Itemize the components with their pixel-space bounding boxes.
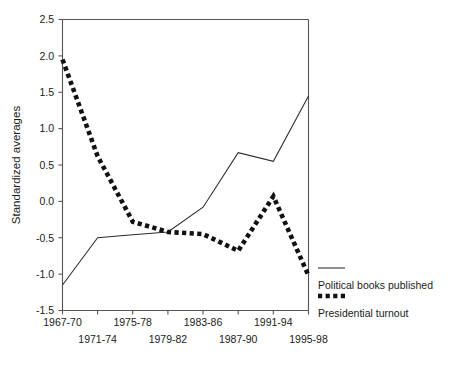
x-tickmarks <box>63 311 309 315</box>
x-tick-label-1971-74: 1971-74 <box>78 333 117 345</box>
y-axis-title: Standardized averages <box>10 106 22 225</box>
chart-figure: 2.5 2.0 1.5 1.0 0.5 0.0 -0.5 -1.0 -1.5 1… <box>0 0 462 368</box>
y-tick-label: -0.5 <box>36 232 54 244</box>
y-tick-label: 1.0 <box>39 122 54 134</box>
y-tick-label: 2.5 <box>39 13 54 25</box>
y-tick-label: -1.5 <box>36 304 54 316</box>
legend-label-political-books-published: Political books published <box>318 279 433 291</box>
x-tick-label-1995-98: 1995-98 <box>289 333 328 345</box>
x-tick-label-1987-90: 1987-90 <box>219 333 258 345</box>
line-chart: 2.5 2.0 1.5 1.0 0.5 0.0 -0.5 -1.0 -1.5 1… <box>0 0 462 368</box>
x-tick-label-1983-86: 1983-86 <box>184 316 223 328</box>
legend-label-presidential-turnout: Presidential turnout <box>318 307 409 319</box>
x-tick-label-1975-78: 1975-78 <box>113 316 152 328</box>
series-line-presidential-turnout <box>63 60 309 276</box>
x-tick-label-1979-82: 1979-82 <box>149 333 188 345</box>
y-tick-label: 1.5 <box>39 86 54 98</box>
chart-legend: Political books published Presidential t… <box>318 268 433 319</box>
y-tick-label: -1.0 <box>36 268 54 280</box>
y-tick-label: 2.0 <box>39 50 54 62</box>
x-tick-label-1991-94: 1991-94 <box>254 316 293 328</box>
y-tick-label: 0.0 <box>39 195 54 207</box>
x-tick-label-1967-70: 1967-70 <box>43 316 82 328</box>
series-group <box>63 60 309 286</box>
y-tick-label: 0.5 <box>39 159 54 171</box>
series-line-political-books-published <box>63 96 309 285</box>
plot-frame <box>63 20 309 311</box>
y-tick-labels: 2.5 2.0 1.5 1.0 0.5 0.0 -0.5 -1.0 -1.5 <box>36 13 54 316</box>
x-tick-labels: 1967-70 1971-74 1975-78 1979-82 1983-86 … <box>43 316 328 345</box>
